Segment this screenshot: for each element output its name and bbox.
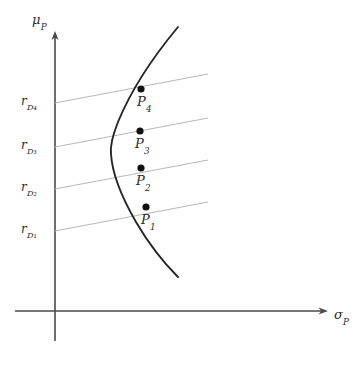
allocation-line-2 [55,160,208,189]
tick-label-r-D4: rD₄ [21,95,37,110]
marker-P3 [136,127,143,134]
point-label-P1-base: P [141,212,150,227]
tick-label-r-D4-sub: D₄ [27,102,37,112]
marker-P1 [142,203,149,210]
mean-variance-frontier-figure: μP σP rD₄ rD₃ rD₂ rD₁ P4 P3 P2 P1 [0,0,364,366]
y-axis-label-base: μ [32,12,40,27]
point-label-P3: P3 [135,137,149,153]
point-label-P1-sub: 1 [150,222,156,232]
tick-label-r-D1: rD₁ [21,223,37,238]
point-label-P4: P4 [137,95,151,111]
point-label-P2-base: P [136,173,145,188]
x-axis-label-base: σ [334,307,343,322]
x-axis-label-sub: P [343,317,349,327]
tick-label-r-D4-base: r [21,94,27,108]
allocation-line-4 [55,74,208,103]
y-axis-label: μP [32,13,46,29]
tick-label-r-D3-base: r [21,138,27,152]
y-axis-label-sub: P [41,22,47,32]
y-axis [51,31,58,341]
x-axis-label: σP [334,308,349,324]
tick-label-r-D1-base: r [21,222,27,236]
point-label-P2-sub: 2 [145,183,151,193]
point-label-P1: P1 [141,213,155,229]
point-label-P4-base: P [137,94,146,109]
allocation-lines [55,74,208,231]
marker-P4 [137,85,144,92]
point-label-P3-sub: 3 [144,146,150,156]
tick-label-r-D2-sub: D₂ [27,188,37,198]
point-label-P2: P2 [136,174,150,190]
point-label-P4-sub: 4 [146,104,152,114]
tick-label-r-D2: rD₂ [21,181,37,196]
figure-canvas [0,0,364,366]
tick-label-r-D1-sub: D₁ [27,230,37,240]
tick-label-r-D2-base: r [21,180,27,194]
marker-P2 [137,164,144,171]
tick-label-r-D3-sub: D₃ [27,146,37,156]
tick-label-r-D3: rD₃ [21,139,37,154]
allocation-line-1 [55,202,208,231]
x-axis [15,307,328,314]
allocation-line-3 [55,118,208,147]
point-label-P3-base: P [135,136,144,151]
